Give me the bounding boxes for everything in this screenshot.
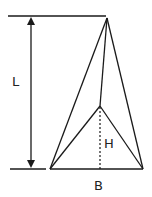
pyramid-diagram: L H B [0, 0, 152, 197]
edge-center [100, 18, 107, 106]
edge-left [50, 18, 107, 169]
inner-edge-left [50, 106, 100, 169]
height-label: H [104, 136, 114, 151]
arrowhead-up-icon [27, 17, 35, 25]
arrowhead-down-icon [27, 160, 35, 168]
base-label: B [94, 178, 103, 193]
length-label: L [12, 74, 20, 89]
